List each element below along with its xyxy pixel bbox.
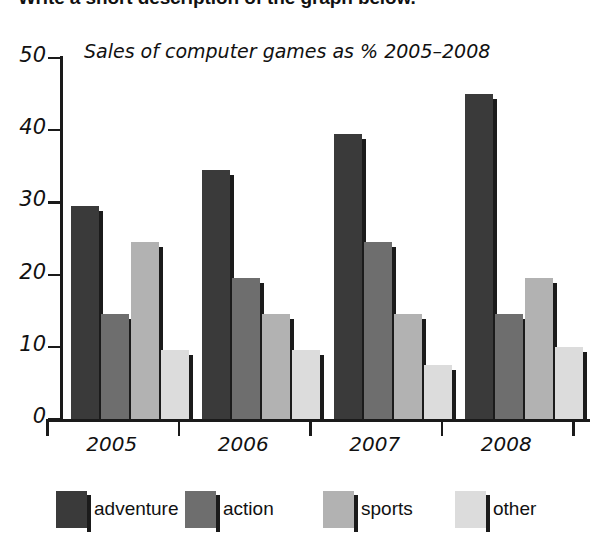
bar-series-layer (0, 0, 608, 419)
bar-sports-2008 (525, 278, 553, 419)
legend-swatch-adventure (56, 491, 87, 528)
legend-label-adventure: adventure (94, 498, 179, 520)
legend-item-adventure[interactable]: adventure (56, 489, 179, 529)
bar-shadow (189, 355, 193, 421)
bar-shadow (583, 352, 587, 421)
bar-other-2006 (292, 350, 320, 419)
x-axis-tick-label-2005: 2005 (46, 432, 178, 456)
chart-legend: adventureactionsportsother (0, 489, 608, 533)
legend-item-action[interactable]: action (185, 489, 274, 529)
legend-swatch-shadow (87, 495, 91, 532)
bar-other-2007 (424, 365, 452, 419)
bar-adventure-2007 (334, 134, 362, 419)
legend-swatch-other (455, 491, 486, 528)
bar-other-2008 (555, 347, 583, 419)
bar-action-2008 (495, 314, 523, 419)
x-axis-tick (572, 421, 575, 436)
x-axis-tick-label-2007: 2007 (309, 432, 441, 456)
bar-action-2005 (101, 314, 129, 419)
bar-action-2006 (232, 278, 260, 419)
bar-sports-2006 (262, 314, 290, 419)
legend-item-sports[interactable]: sports (323, 489, 413, 529)
legend-swatch-shadow (486, 495, 490, 532)
x-axis-tick-label-2006: 2006 (178, 432, 310, 456)
bar-adventure-2005 (71, 206, 99, 419)
bar-shadow (320, 355, 324, 421)
legend-swatch-sports (323, 491, 354, 528)
bar-sports-2005 (131, 242, 159, 419)
bar-action-2007 (364, 242, 392, 419)
bar-adventure-2008 (465, 94, 493, 419)
legend-label-other: other (493, 498, 536, 520)
x-axis-tick-label-2008: 2008 (441, 432, 573, 456)
legend-swatch-shadow (216, 495, 220, 532)
legend-label-sports: sports (361, 498, 413, 520)
bar-shadow (452, 370, 456, 421)
x-axis-line (46, 419, 590, 422)
legend-swatch-action (185, 491, 216, 528)
legend-item-other[interactable]: other (455, 489, 536, 529)
legend-label-action: action (223, 498, 274, 520)
bar-sports-2007 (394, 314, 422, 419)
bar-adventure-2006 (202, 170, 230, 419)
legend-swatch-shadow (354, 495, 358, 532)
bar-other-2005 (161, 350, 189, 419)
